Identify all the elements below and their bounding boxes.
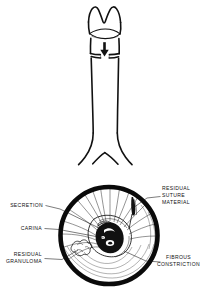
label-secretion: SECRETION [10, 202, 43, 208]
label-residual-suture-material-line-3: MATERIAL [162, 199, 190, 205]
bronchoscopic-circular-view [60, 183, 158, 285]
label-carina: CARINA [21, 225, 43, 231]
label-fibrous-constriction-line-1: FIBROUS [166, 254, 191, 260]
medical-illustration-figure: SECRETION CARINA RESIDUAL GRANULOMA RESI… [0, 0, 208, 297]
label-residual-suture-material-line-2: SUTURE [162, 192, 185, 198]
label-residual-suture-material-line-1: RESIDUAL [162, 185, 190, 191]
label-residual-granuloma-line-1: RESIDUAL [14, 251, 42, 257]
label-fibrous-constriction-line-2: CONSTRICTION [157, 261, 200, 267]
figure-canvas: SECRETION CARINA RESIDUAL GRANULOMA RESI… [0, 0, 208, 297]
label-residual-granuloma-line-2: GRANULOMA [6, 258, 42, 264]
